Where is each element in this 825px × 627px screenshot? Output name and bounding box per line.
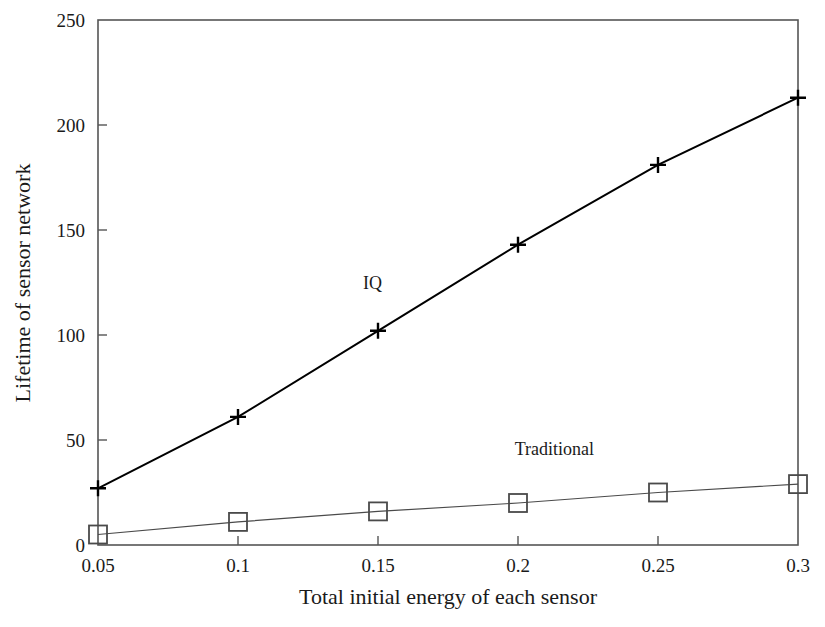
series-line (98, 98, 798, 489)
series-annotation-iq: IQ (363, 273, 382, 293)
data-series-layer (89, 90, 807, 544)
x-tick-label: 0.1 (226, 555, 250, 576)
x-axis-ticks: 0.050.10.150.20.250.3 (81, 536, 810, 576)
plot-frame (98, 20, 798, 545)
y-tick-label: 200 (57, 115, 86, 136)
series-annotation-traditional: Traditional (515, 439, 594, 459)
series-line (98, 484, 798, 534)
y-tick-label: 100 (57, 325, 86, 346)
chart-figure: 050100150200250 0.050.10.150.20.250.3 IQ… (0, 0, 825, 627)
y-tick-label: 150 (57, 220, 86, 241)
y-tick-label: 50 (66, 430, 85, 451)
data-point-marker (510, 237, 526, 253)
x-tick-label: 0.2 (506, 555, 530, 576)
series-annotations: IQTraditional (363, 273, 594, 459)
y-tick-label: 250 (57, 10, 86, 31)
x-tick-label: 0.3 (786, 555, 810, 576)
y-axis-title: Lifetime of sensor network (10, 164, 35, 403)
line-chart: 050100150200250 0.050.10.150.20.250.3 IQ… (0, 0, 825, 627)
data-point-marker (650, 157, 666, 173)
x-tick-label: 0.05 (81, 555, 114, 576)
x-axis-title: Total initial energy of each sensor (299, 584, 598, 609)
y-axis-ticks: 050100150200250 (57, 10, 108, 556)
data-point-marker (230, 409, 246, 425)
series-traditional (89, 475, 807, 543)
data-point-marker (370, 323, 386, 339)
x-tick-label: 0.25 (641, 555, 674, 576)
data-point-marker (90, 480, 106, 496)
y-tick-label: 0 (76, 535, 86, 556)
x-tick-label: 0.15 (361, 555, 394, 576)
data-point-marker (790, 90, 806, 106)
series-iq (90, 90, 806, 497)
